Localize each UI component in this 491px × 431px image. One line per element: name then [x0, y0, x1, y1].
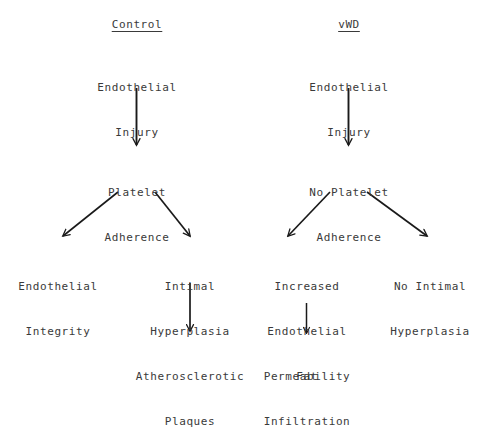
node-line: Increased: [264, 279, 351, 294]
node-line: Endothelial: [18, 279, 97, 294]
node-line: Injury: [309, 125, 388, 140]
node-line: Infiltration: [264, 414, 351, 429]
node-line: Adherence: [104, 230, 169, 245]
node-line: Integrity: [18, 324, 97, 339]
node-atherosclerotic-plaques: Atherosclerotic Plaques: [136, 339, 244, 431]
node-line: No Intimal: [390, 279, 469, 294]
node-line: Hyperplasia: [390, 324, 469, 339]
node-line: Endothelial: [264, 324, 351, 339]
column-header-vwd: vWD: [338, 18, 360, 32]
node-line: Atherosclerotic: [136, 369, 244, 384]
node-control-endothelial-injury: Endothelial Injury: [97, 50, 176, 170]
node-line: Adherence: [309, 230, 388, 245]
node-line: Platelet: [104, 185, 169, 200]
node-line: Intimal: [150, 279, 229, 294]
node-fat-infiltration: Fat Infiltration: [264, 339, 351, 431]
node-vwd-endothelial-injury: Endothelial Injury: [309, 50, 388, 170]
node-line: Plaques: [136, 414, 244, 429]
node-line: No Platelet: [309, 185, 388, 200]
node-line: Endothelial: [309, 80, 388, 95]
column-header-control: Control: [112, 18, 163, 32]
node-line: Fat: [264, 369, 351, 384]
node-line: Injury: [97, 125, 176, 140]
node-line: Hyperplasia: [150, 324, 229, 339]
node-endothelial-integrity: Endothelial Integrity: [18, 249, 97, 369]
node-no-intimal-hyperplasia: No Intimal Hyperplasia: [390, 249, 469, 369]
node-line: Endothelial: [97, 80, 176, 95]
